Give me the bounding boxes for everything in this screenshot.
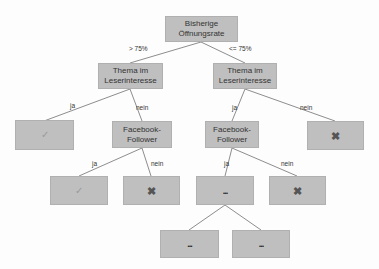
edge-label-no: nein xyxy=(300,104,312,111)
edge-label-over-75: > 75% xyxy=(129,45,148,52)
node-label: Thema im Leserinteresse xyxy=(104,66,156,86)
x-icon: ✖ xyxy=(331,131,340,141)
ellipsis-icon: ... xyxy=(259,239,264,249)
node-leaf-no: ✖ xyxy=(123,176,180,205)
node-label: Facebook- Follower xyxy=(213,125,251,145)
node-leaf-no: ✖ xyxy=(269,176,326,205)
node-label: Thema im Leserinteresse xyxy=(219,66,271,86)
edge-label-under-75: <= 75% xyxy=(229,45,251,52)
node-facebook-follower-left: Facebook- Follower xyxy=(112,121,172,148)
edge-label-no: nein xyxy=(151,160,163,167)
node-continuation: ... xyxy=(232,230,290,258)
node-topic-interest-left: Thema im Leserinteresse xyxy=(98,63,163,89)
x-icon: ✖ xyxy=(293,186,302,196)
node-leaf-yes: ✓ xyxy=(50,176,108,205)
node-label: Bisherige Öffnungsrate xyxy=(178,19,224,39)
node-leaf-no: ✖ xyxy=(307,121,364,150)
node-topic-interest-right: Thema im Leserinteresse xyxy=(213,63,277,89)
edge-label-no: nein xyxy=(281,160,293,167)
ellipsis-icon: ... xyxy=(187,239,192,249)
node-leaf-yes: ✓ xyxy=(15,120,74,150)
x-icon: ✖ xyxy=(147,186,156,196)
check-icon: ✓ xyxy=(41,130,49,140)
node-facebook-follower-right: Facebook- Follower xyxy=(205,121,259,148)
node-label: Facebook- Follower xyxy=(123,125,161,145)
edge-label-no: nein xyxy=(136,104,148,111)
edge-label-yes: ja xyxy=(232,104,237,111)
ellipsis-icon: ... xyxy=(223,186,228,196)
edge-label-yes: ja xyxy=(224,160,229,167)
edge-label-yes: ja xyxy=(92,160,97,167)
node-continuation: ... xyxy=(196,176,254,205)
node-opening-rate: Bisherige Öffnungsrate xyxy=(165,16,238,42)
check-icon: ✓ xyxy=(75,186,83,196)
node-continuation: ... xyxy=(160,230,219,258)
edge-label-yes: ja xyxy=(70,102,75,109)
